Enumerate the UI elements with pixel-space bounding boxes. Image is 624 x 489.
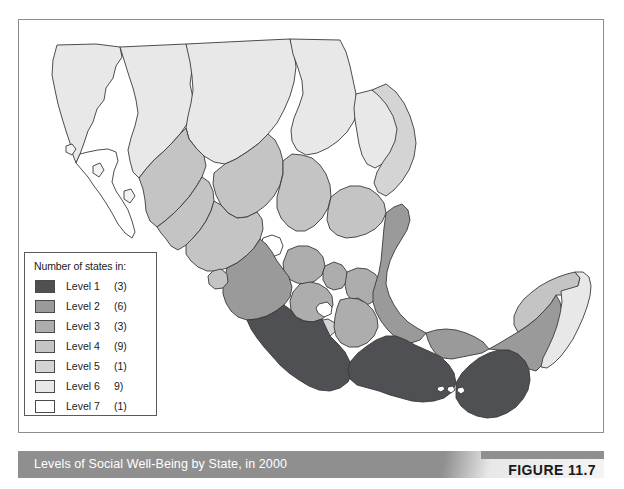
legend-item-level-7: Level 7 (1) xyxy=(35,396,156,416)
legend-label-level-7: Level 7 xyxy=(66,400,114,412)
legend-label-level-1: Level 1 xyxy=(66,280,114,292)
map-legend: Number of states in: Level 1 (3) Level 2… xyxy=(24,252,157,416)
legend-count-level-6: 9) xyxy=(114,380,123,392)
legend-swatch-level-7 xyxy=(35,400,55,413)
legend-count-level-3: (3) xyxy=(114,320,127,332)
legend-label-level-3: Level 3 xyxy=(66,320,114,332)
legend-item-level-6: Level 6 9) xyxy=(35,376,156,396)
legend-item-level-2: Level 2 (6) xyxy=(35,296,156,316)
legend-title: Number of states in: xyxy=(34,260,156,272)
figure-number-tab xyxy=(481,451,604,459)
legend-count-level-1: (3) xyxy=(114,280,127,292)
figure-container: Number of states in: Level 1 (3) Level 2… xyxy=(0,0,624,489)
legend-item-level-1: Level 1 (3) xyxy=(35,276,156,296)
legend-swatch-level-4 xyxy=(35,340,55,353)
legend-count-level-5: (1) xyxy=(114,360,127,372)
legend-label-level-5: Level 5 xyxy=(66,360,114,372)
legend-swatch-level-1 xyxy=(35,280,55,293)
legend-count-level-7: (1) xyxy=(114,400,127,412)
legend-label-level-4: Level 4 xyxy=(66,340,114,352)
legend-swatch-level-6 xyxy=(35,380,55,393)
figure-number-label: FIGURE 11.7 xyxy=(481,460,604,480)
legend-label-level-2: Level 2 xyxy=(66,300,114,312)
legend-item-level-4: Level 4 (9) xyxy=(35,336,156,356)
figure-caption-text: Levels of Social Well-Being by State, in… xyxy=(34,451,287,478)
legend-swatch-level-3 xyxy=(35,320,55,333)
legend-count-level-4: (9) xyxy=(114,340,127,352)
legend-label-level-6: Level 6 xyxy=(66,380,114,392)
legend-swatch-level-5 xyxy=(35,360,55,373)
legend-swatch-level-2 xyxy=(35,300,55,313)
legend-item-level-3: Level 3 (3) xyxy=(35,316,156,336)
legend-count-level-2: (6) xyxy=(114,300,127,312)
legend-item-level-5: Level 5 (1) xyxy=(35,356,156,376)
